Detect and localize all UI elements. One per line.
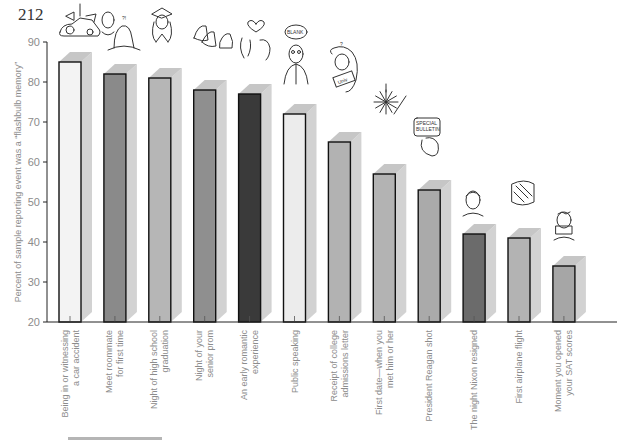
bar	[284, 104, 317, 322]
nixon-illustration	[463, 191, 483, 216]
bar	[149, 68, 182, 322]
bar-side-face	[261, 84, 272, 322]
bottom-rule	[68, 437, 162, 440]
prom-shoes-illustration	[194, 26, 233, 48]
bar	[508, 228, 541, 322]
x-tick-label: First date—when youmet him or her	[374, 330, 395, 415]
bar	[59, 52, 92, 322]
bar-side-face	[485, 224, 496, 322]
x-tick-label-line: met him or her	[385, 330, 395, 388]
bar	[463, 224, 496, 322]
bar-front-face	[194, 90, 216, 322]
x-tick-label-line: The night Nixon resigned	[469, 330, 479, 430]
x-tick-label-line: a car accident	[71, 330, 81, 387]
bar-side-face	[171, 68, 182, 322]
bar	[104, 64, 137, 322]
bar-side-face	[126, 64, 137, 322]
romantic-illustration	[240, 20, 270, 60]
x-tick-label: An early romanticexperience	[239, 330, 260, 401]
y-tick-label: 20	[28, 316, 40, 328]
x-tick-label: Night of high schoolgraduation	[149, 330, 170, 409]
x-tick-label: President Reagan shot	[424, 330, 434, 422]
bar-front-face	[284, 114, 306, 322]
blank-bubble-text: BLANK	[287, 29, 304, 35]
x-tick-label-line: Moment you opened	[553, 330, 563, 412]
bar-side-face	[81, 52, 92, 322]
sat-scores-illustration	[554, 212, 574, 240]
y-ticks-group: 2030405060708090	[28, 36, 47, 328]
college-letter-illustration: ?Univ	[330, 41, 357, 92]
x-labels-group: Being in or witnessinga car accidentMeet…	[60, 330, 575, 431]
x-tick-label-line: Being in or witnessing	[60, 330, 70, 418]
bar-side-face	[395, 164, 406, 322]
bar-front-face	[59, 62, 81, 322]
bar	[328, 132, 361, 322]
bar-side-face	[530, 228, 541, 322]
y-tick-label: 30	[28, 276, 40, 288]
bar-front-face	[239, 94, 261, 322]
tv-text-line2: BULLETIN	[416, 126, 440, 132]
bar-front-face	[463, 234, 485, 322]
x-tick-label: The night Nixon resigned	[469, 330, 479, 430]
bar-front-face	[104, 74, 126, 322]
bar-front-face	[373, 174, 395, 322]
bar-side-face	[575, 256, 586, 322]
bar-front-face	[149, 78, 171, 322]
graduation-illustration	[152, 8, 172, 42]
y-tick-label: 60	[28, 156, 40, 168]
x-tick-label-line: for first time	[115, 330, 125, 377]
bar	[553, 256, 586, 322]
bar-side-face	[350, 132, 361, 322]
bar-front-face	[508, 238, 530, 322]
y-tick-label: 50	[28, 196, 40, 208]
tv-bulletin-illustration: SPECIALBULLETIN	[414, 118, 440, 156]
x-tick-label-line: First airplane flight	[514, 330, 524, 404]
x-tick-label: Meet roommatefor first time	[104, 330, 125, 393]
flashbulb-memory-chart: ?!BLANK?UnivSPECIALBULLETIN 203040506070…	[0, 0, 631, 441]
bar-front-face	[553, 266, 575, 322]
x-tick-label: Receipt of collegeadmissions letter	[329, 330, 350, 402]
public-speaking-illustration: BLANK	[284, 25, 308, 84]
bar	[418, 180, 451, 322]
x-tick-label-line: Receipt of college	[329, 330, 339, 402]
x-tick-label: Being in or witnessinga car accident	[60, 330, 81, 418]
car-accident-illustration	[60, 4, 101, 36]
x-tick-label-line: graduation	[160, 330, 170, 373]
bar	[239, 84, 272, 322]
bar	[373, 164, 406, 322]
x-tick-label-line: First date—when you	[374, 330, 384, 415]
x-tick-label: Public speaking	[290, 330, 300, 393]
x-tick-label-line: admissions letter	[340, 330, 350, 398]
y-tick-label: 70	[28, 116, 40, 128]
bar-side-face	[216, 80, 227, 322]
x-tick-label-line: Night of high school	[149, 330, 159, 409]
x-tick-label-line: your SAT scores	[564, 330, 574, 396]
bar-front-face	[418, 190, 440, 322]
roommate-exclaim: ?!	[122, 15, 126, 21]
x-tick-label-line: senior prom	[205, 330, 215, 378]
bar	[194, 80, 227, 322]
x-tick-label-line: Meet roommate	[104, 330, 114, 393]
question-mark: ?	[340, 41, 343, 47]
x-tick-label: First airplane flight	[514, 330, 524, 404]
bar-side-face	[440, 180, 451, 322]
x-tick-label-line: Public speaking	[290, 330, 300, 393]
bar-side-face	[306, 104, 317, 322]
y-tick-label: 90	[28, 36, 40, 48]
x-tick-label-line: Night of your	[194, 330, 204, 381]
bar-front-face	[328, 142, 350, 322]
airplane-illustration	[512, 181, 534, 205]
roommate-illustration: ?!	[102, 12, 140, 50]
bars-group	[59, 52, 586, 322]
x-tick-label-line: An early romantic	[239, 330, 249, 401]
fireworks-illustration	[374, 84, 406, 114]
x-tick-label: Night of yoursenior prom	[194, 330, 215, 381]
x-tick-label-line: President Reagan shot	[424, 330, 434, 422]
y-tick-label: 80	[28, 76, 40, 88]
y-axis-label: Percent of sample reporting event was a …	[13, 62, 23, 303]
x-tick-label-line: experience	[250, 330, 260, 374]
y-tick-label: 40	[28, 236, 40, 248]
x-tick-label: Moment you openedyour SAT scores	[553, 330, 574, 413]
